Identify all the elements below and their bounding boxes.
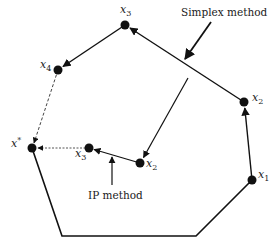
simplex-method-label: Simplex method [181, 6, 268, 18]
simplex-edge-x1-x2 [245, 108, 252, 180]
label-x4: x4 [40, 58, 51, 73]
vertex-x4 [54, 66, 63, 75]
ip-point-x2 [136, 159, 145, 168]
label-ip-x3: x3 [75, 147, 86, 162]
simplex-label-pointer [185, 22, 211, 59]
ip-point-x3 [85, 144, 94, 153]
ip-edge-x2-x3 [94, 150, 140, 164]
simplex-edge-x3-x4 [63, 25, 125, 67]
label-ip-x2: x2 [146, 157, 157, 172]
ip-method-label: IP method [88, 189, 143, 201]
label-x2: x2 [252, 91, 263, 106]
vertex-x-star [28, 144, 37, 153]
simplex-vs-ip-diagram: Simplex method IP method x* x1 x2 x3 x4 … [0, 0, 276, 250]
vertex-x2 [240, 98, 249, 107]
simplex-edge-x4-xstar [34, 70, 58, 143]
label-x1: x1 [258, 168, 269, 183]
label-x-star: x* [11, 136, 21, 150]
label-x3: x3 [120, 3, 131, 18]
vertex-x1 [248, 176, 257, 185]
vertex-x3 [121, 21, 130, 30]
ip-edge-start-x2 [144, 78, 189, 158]
simplex-edge-x2-x3 [130, 28, 244, 102]
